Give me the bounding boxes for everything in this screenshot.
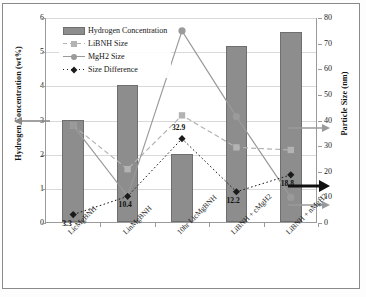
legend-item: Hydrogen Concentration [63,24,167,37]
right-axis-title: Particle Size (nm) [340,29,349,179]
right-axis-tick-label: 30 [324,141,340,150]
legend-label: Size Difference [88,65,138,74]
legend-marker-icon [71,54,77,60]
data-point-marker: LicMgBNH — MgH2 Size: 38 nm [70,122,77,129]
right-axis-tick-label: 70 [324,39,340,48]
right-axis-tick-label: 60 [324,64,340,73]
legend-label: LiBNH Size [88,39,128,48]
legend-marker-icon [71,67,78,74]
right-axis-tick-mark [318,44,322,45]
right-axis-tick-mark [318,146,322,147]
legend-item: LiBNH Size [63,37,167,50]
legend-line-swatch-icon [63,53,85,61]
left-axis-title: Hydrogen Concentration (wt%) [14,29,23,179]
right-axis-arrow-upper-icon [286,121,332,135]
data-label: 10.4 [119,200,132,209]
data-label: 32.9 [172,123,185,132]
data-point-marker: 10hr LicMgBNH — MgH2 Size: 75 nm [178,27,185,34]
right-axis-tick-mark [318,69,322,70]
x-axis-tick-mark [100,223,101,227]
legend-line-swatch-icon [63,66,85,74]
right-axis-tick-label: 20 [324,167,340,176]
left-axis-arrow-icon [12,114,52,128]
legend-item: MgH2 Size [63,50,167,63]
legend-item: Size Difference [63,63,167,76]
right-axis-tick-label: 80 [324,13,340,22]
x-axis-tick-mark [209,223,210,227]
right-axis-tick-label: 50 [324,90,340,99]
data-point-marker: LicMgBNH — Size Difference: 3.3 nm [70,211,77,218]
x-axis-tick-mark [264,223,265,227]
legend-marker-icon [71,41,77,47]
x-axis-tick-mark [155,223,156,227]
chart-figure: Hydrogen Concentration (wt%) Particle Si… [0,0,366,297]
left-axis-tick-mark [42,223,46,224]
data-point-marker: 10hr LicMgBNH — LiBNH Size: 42 nm [179,112,185,118]
chart-legend: Hydrogen ConcentrationLiBNH SizeMgH2 Siz… [59,22,171,78]
right-axis-tick-mark [318,18,322,19]
data-label: 12.2 [226,196,239,205]
right-axis-tick-mark [318,95,322,96]
right-axis-arrow-bold-icon [286,178,332,194]
figure-frame: Hydrogen Concentration (wt%) Particle Si… [2,3,360,289]
data-point-marker: LiBNH + cMgH2 — LiBNH Size: 29.5 nm [233,144,239,150]
data-point-marker: LiBNH + nMgH2 — LiBNH Size: 28.5 nm [288,147,294,153]
right-axis-tick-mark [318,172,322,173]
data-point-marker: LiBNH + cMgH2 — MgH2 Size: 41.5 nm [233,113,240,120]
legend-label: Hydrogen Concentration [88,26,167,35]
legend-line-swatch-icon [63,40,85,48]
right-axis-tick-label: 0 [324,218,340,227]
x-axis-tick-mark [318,223,319,227]
data-point-marker: LinMgBNH — LiBNH Size: 21 nm [124,166,130,172]
legend-label: MgH2 Size [88,52,125,61]
legend-bar-swatch-icon [63,27,85,35]
